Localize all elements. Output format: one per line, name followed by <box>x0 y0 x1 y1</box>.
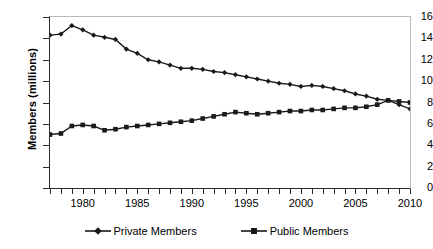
x-axis-tick <box>61 189 62 194</box>
x-axis-tick <box>181 189 182 194</box>
data-point-marker <box>91 33 96 38</box>
x-axis-tick-label: 1985 <box>117 197 157 209</box>
data-point-marker <box>178 66 183 71</box>
data-point-marker <box>200 67 205 72</box>
data-point-marker <box>342 88 347 93</box>
x-axis-tick <box>105 189 106 194</box>
chart-legend: Private Members Public Members <box>0 225 433 237</box>
data-point-marker <box>244 111 249 116</box>
x-axis-tick-label: 2005 <box>335 197 375 209</box>
x-axis-tick <box>410 189 411 194</box>
legend-square-marker-icon <box>241 225 267 237</box>
x-axis-tick <box>235 189 236 194</box>
data-point-marker <box>91 124 96 129</box>
x-axis-tick <box>355 189 356 194</box>
x-axis-tick <box>290 189 291 194</box>
data-point-marker <box>222 112 227 117</box>
data-point-marker <box>124 125 129 130</box>
data-point-marker <box>408 100 410 105</box>
x-axis-tick <box>301 189 302 194</box>
data-point-marker <box>266 79 271 84</box>
data-point-marker <box>407 106 410 111</box>
y-axis-title: Members (millions) <box>26 19 38 179</box>
data-point-marker <box>102 35 107 40</box>
data-point-marker <box>331 107 336 112</box>
x-axis-tick <box>246 189 247 194</box>
x-axis-tick <box>323 189 324 194</box>
data-point-marker <box>320 84 325 89</box>
x-axis-tick <box>50 189 51 194</box>
data-point-marker <box>135 124 140 129</box>
data-point-marker <box>364 104 369 109</box>
data-point-marker <box>157 122 162 127</box>
x-axis-tick <box>203 189 204 194</box>
data-point-marker <box>211 114 216 119</box>
data-point-marker <box>255 76 260 81</box>
data-point-marker <box>211 69 216 74</box>
x-axis-tick <box>83 189 84 194</box>
x-axis-tick <box>192 189 193 194</box>
x-axis-tick <box>377 189 378 194</box>
x-axis-tick <box>388 189 389 194</box>
x-axis-tick <box>225 189 226 194</box>
data-point-marker <box>102 128 107 133</box>
data-point-marker <box>70 124 75 129</box>
data-point-marker <box>179 119 184 124</box>
x-axis-tick-label: 1990 <box>172 197 212 209</box>
x-axis-tick <box>137 189 138 194</box>
x-axis-tick <box>334 189 335 194</box>
data-point-marker <box>50 132 52 137</box>
x-axis-tick <box>126 189 127 194</box>
data-point-marker <box>310 108 315 113</box>
data-point-marker <box>309 83 314 88</box>
plot-area <box>49 16 411 189</box>
x-axis-tick <box>214 189 215 194</box>
data-point-marker <box>222 70 227 75</box>
data-point-marker <box>397 99 402 104</box>
data-point-marker <box>189 66 194 71</box>
x-axis-tick <box>279 189 280 194</box>
x-axis-tick-label: 1980 <box>63 197 103 209</box>
data-point-marker <box>287 82 292 87</box>
data-point-marker <box>266 111 271 116</box>
x-axis-tick-label: 2000 <box>281 197 321 209</box>
x-axis-tick <box>268 189 269 194</box>
chart-container: Members (millions) 0246810121416 1980198… <box>0 0 433 249</box>
data-point-marker <box>276 81 281 86</box>
x-axis-tick <box>72 189 73 194</box>
data-point-marker <box>200 116 205 121</box>
data-point-marker <box>277 110 282 115</box>
legend-item-public-members: Public Members <box>241 225 349 237</box>
data-point-marker <box>364 93 369 98</box>
series-private-members <box>50 23 410 112</box>
x-axis-tick <box>170 189 171 194</box>
data-point-marker <box>59 131 64 136</box>
legend-item-private-members: Private Members <box>85 225 197 237</box>
x-axis-tick <box>94 189 95 194</box>
x-axis-tick <box>115 189 116 194</box>
x-axis-tick-label: 1995 <box>226 197 266 209</box>
data-point-marker <box>255 112 260 117</box>
data-point-marker <box>288 109 293 114</box>
data-point-marker <box>320 108 325 113</box>
data-point-marker <box>80 27 85 32</box>
data-point-marker <box>233 110 238 115</box>
x-axis-tick <box>159 189 160 194</box>
legend-label-private-members: Private Members <box>114 225 197 237</box>
data-point-marker <box>298 84 303 89</box>
x-axis-tick <box>399 189 400 194</box>
data-point-marker <box>50 33 53 38</box>
series-public-members <box>50 98 410 137</box>
data-point-marker <box>353 106 358 111</box>
data-point-marker <box>375 97 380 102</box>
x-axis-tick <box>345 189 346 194</box>
data-point-marker <box>353 91 358 96</box>
data-point-marker <box>168 121 173 126</box>
data-point-marker <box>167 62 172 67</box>
data-point-marker <box>342 106 347 111</box>
data-point-marker <box>299 109 304 114</box>
data-point-marker <box>113 127 118 132</box>
data-point-marker <box>233 72 238 77</box>
data-point-marker <box>386 98 391 103</box>
legend-label-public-members: Public Members <box>270 225 349 237</box>
